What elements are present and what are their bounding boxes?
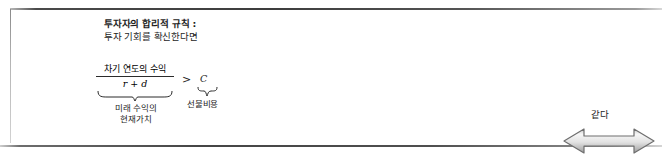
left-fraction-denominator: r + d [96, 77, 174, 89]
figure-container: 투자자의 합리적 규칙 : 투자 기회를 확신한다면 차기 연도의 수익 r +… [0, 0, 662, 159]
left-right-term: C [200, 73, 207, 84]
left-brace-label-line-2: 현재가치 [102, 114, 170, 125]
left-comparator: > [182, 73, 191, 86]
left-brace-label-present-value: 미래 수익의 현재가치 [102, 103, 170, 125]
left-fraction-numerator: 차기 연도의 수익 [96, 62, 174, 76]
left-panel: 투자자의 합리적 규칙 : 투자 기회를 확신한다면 차기 연도의 수익 r +… [0, 0, 270, 159]
left-brace-label-upfront-cost: 선불비용 [187, 99, 218, 110]
left-heading-line-2: 투자 기회를 확신한다면 [104, 30, 198, 43]
left-heading-line-1: 투자자의 합리적 규칙 : [104, 17, 196, 30]
left-underbrace-wide-icon [96, 90, 174, 102]
left-underbrace-narrow-icon [197, 86, 219, 97]
left-brace-label-line-1: 미래 수익의 [115, 103, 157, 113]
right-panel: 자본의 사용자 비용(차기 연도에 기계를 한 대 더 사용하는 데 연관된 추… [390, 0, 662, 159]
left-fraction: 차기 연도의 수익 r + d [96, 62, 174, 89]
center-equivalence-group: 같다 [275, 52, 390, 114]
